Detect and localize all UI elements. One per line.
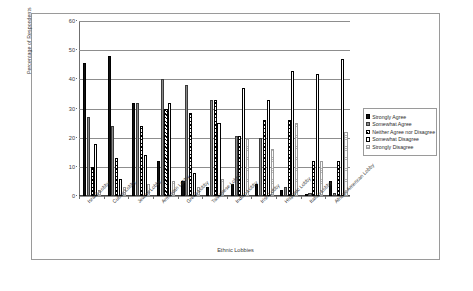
y-tick-label: 60 bbox=[57, 18, 75, 24]
legend-label: Strongly Disagree bbox=[372, 144, 413, 150]
y-tick-label: 20 bbox=[57, 135, 75, 141]
bar bbox=[280, 190, 283, 196]
legend-swatch-icon bbox=[366, 130, 370, 134]
legend-label: Strongly Agree bbox=[372, 114, 406, 120]
bar bbox=[235, 136, 238, 196]
legend-swatch-icon bbox=[366, 122, 370, 126]
bar bbox=[189, 113, 192, 196]
x-tickmark bbox=[325, 196, 326, 199]
legend-swatch-icon bbox=[366, 145, 370, 149]
bar bbox=[168, 103, 171, 196]
bar bbox=[206, 187, 209, 196]
y-tick-label: 30 bbox=[57, 106, 75, 112]
x-tickmark bbox=[301, 196, 302, 199]
y-tickmark bbox=[76, 49, 77, 50]
bar bbox=[337, 161, 340, 196]
y-axis-title: Percentage of Respondents bbox=[26, 0, 32, 74]
bar bbox=[140, 126, 143, 196]
legend-label: Somewhat Agree bbox=[372, 121, 412, 127]
legend-item: Somewhat Disagree bbox=[366, 136, 433, 142]
bar bbox=[217, 123, 220, 196]
bar-group bbox=[329, 21, 348, 196]
legend-item: Neither Agree nor Disagree bbox=[366, 129, 433, 135]
x-tickmark bbox=[276, 196, 277, 199]
bar bbox=[108, 56, 111, 196]
x-tickmark bbox=[227, 196, 228, 199]
x-tickmark bbox=[79, 196, 80, 199]
y-tick-label: 0 bbox=[57, 193, 75, 199]
bar bbox=[316, 74, 319, 197]
bar bbox=[115, 158, 118, 196]
x-tickmark bbox=[104, 196, 105, 199]
bar bbox=[210, 100, 213, 196]
bar-group bbox=[132, 21, 151, 196]
y-tickmark bbox=[76, 137, 77, 138]
bar bbox=[214, 100, 217, 196]
bar-group bbox=[280, 21, 299, 196]
y-tickmark bbox=[76, 166, 77, 167]
bar-group bbox=[157, 21, 176, 196]
bar-group bbox=[255, 21, 274, 196]
x-axis-title: Ethnic Lobbies bbox=[32, 247, 439, 253]
bar-group bbox=[305, 21, 324, 196]
x-tickmark bbox=[251, 196, 252, 199]
bar bbox=[291, 71, 294, 196]
bar bbox=[312, 161, 315, 196]
bar-group bbox=[108, 21, 127, 196]
legend-item: Strongly Agree bbox=[366, 114, 433, 120]
legend-item: Strongly Disagree bbox=[366, 144, 433, 150]
bar bbox=[305, 194, 308, 196]
bar bbox=[242, 88, 245, 196]
y-tickmark bbox=[76, 20, 77, 21]
bar-group bbox=[231, 21, 250, 196]
bar-group bbox=[83, 21, 102, 196]
legend-swatch-icon bbox=[366, 114, 370, 118]
plot-area bbox=[79, 21, 350, 196]
legend-label: Neither Agree nor Disagree bbox=[372, 129, 435, 135]
bar bbox=[161, 79, 164, 196]
bar bbox=[87, 117, 90, 196]
x-tickmark bbox=[153, 196, 154, 199]
legend-item: Somewhat Agree bbox=[366, 121, 433, 127]
x-tickmark bbox=[178, 196, 179, 199]
chart-frame: Percentage of Respondents 0102030405060 … bbox=[31, 13, 440, 260]
bar bbox=[111, 126, 114, 196]
y-tickmark bbox=[76, 78, 77, 79]
y-tickmark bbox=[76, 108, 77, 109]
bar bbox=[267, 100, 270, 196]
bar bbox=[288, 120, 291, 196]
x-tickmark bbox=[128, 196, 129, 199]
y-tickmark bbox=[76, 195, 77, 196]
y-tick-label: 50 bbox=[57, 47, 75, 53]
bar bbox=[259, 138, 262, 196]
legend-label: Somewhat Disagree bbox=[372, 136, 419, 142]
bar bbox=[83, 63, 86, 196]
y-tick-label: 40 bbox=[57, 76, 75, 82]
bar bbox=[238, 136, 241, 196]
x-tickmark bbox=[202, 196, 203, 199]
chart-legend: Strongly AgreeSomewhat AgreeNeither Agre… bbox=[363, 108, 437, 156]
bar-group bbox=[181, 21, 200, 196]
y-tick-label: 10 bbox=[57, 164, 75, 170]
bar-group bbox=[206, 21, 225, 196]
bar bbox=[341, 59, 344, 196]
bar bbox=[164, 109, 167, 197]
legend-swatch-icon bbox=[366, 137, 370, 141]
bar bbox=[263, 120, 266, 196]
